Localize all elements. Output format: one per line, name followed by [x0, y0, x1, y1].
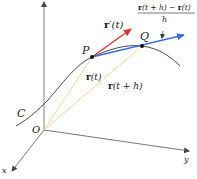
curve-label: C	[17, 107, 26, 120]
x-axis-label: x	[2, 166, 7, 175]
y-axis	[44, 130, 189, 151]
position-vector-r-t-label: r(t)	[86, 72, 102, 82]
point-p	[90, 55, 94, 59]
point-p-label: P	[81, 44, 90, 57]
point-q	[140, 44, 144, 48]
secant-vector	[92, 35, 184, 57]
y-axis-label: y	[183, 155, 189, 164]
point-q-label: Q	[140, 30, 149, 43]
difference-quotient-label: r(t + h) − r(t) h	[138, 3, 195, 24]
svg-text:r(t + h) − r(t): r(t + h) − r(t)	[138, 3, 191, 12]
x-axis	[12, 130, 44, 171]
quotient-leader-arrow	[162, 31, 163, 38]
secant-tangent-diagram: P Q O C x y r′(t) r(t) r(t + h) r(t + h)…	[0, 0, 197, 179]
tangent-vector-label: r′(t)	[104, 19, 123, 30]
origin-label: O	[32, 124, 40, 135]
position-vector-r-t	[44, 57, 92, 130]
svg-text:h: h	[162, 15, 167, 24]
position-vector-r-t-plus-h-label: r(t + h)	[108, 81, 143, 91]
curve-c	[16, 46, 180, 126]
